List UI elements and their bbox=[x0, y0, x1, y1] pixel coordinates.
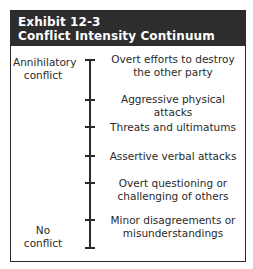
level-aggressive-physical: Aggressive physical attacks bbox=[103, 93, 243, 119]
axis-bottom-label: No conflict bbox=[13, 224, 73, 250]
exhibit-box: Exhibit 12-3 Conflict Intensity Continuu… bbox=[10, 10, 246, 262]
axis-tick bbox=[85, 219, 95, 221]
level-overt-questioning: Overt questioning or challenging of othe… bbox=[103, 177, 243, 203]
level-assertive-verbal: Assertive verbal attacks bbox=[103, 150, 243, 163]
level-threats: Threats and ultimatums bbox=[103, 121, 243, 134]
level-minor-disagreements: Minor disagreements or misunderstandings bbox=[103, 214, 243, 240]
axis-tick-top bbox=[85, 59, 95, 61]
level-overt-efforts: Overt efforts to destroy the other party bbox=[103, 53, 243, 79]
exhibit-header: Exhibit 12-3 Conflict Intensity Continuu… bbox=[11, 11, 245, 46]
axis-tick bbox=[85, 182, 95, 184]
axis-tick bbox=[85, 155, 95, 157]
exhibit-number: Exhibit 12-3 bbox=[18, 15, 245, 29]
axis-tick bbox=[85, 99, 95, 101]
axis-tick-bottom bbox=[85, 247, 95, 249]
axis-top-label: Annihilatory conflict bbox=[13, 56, 73, 82]
axis-tick bbox=[85, 126, 95, 128]
exhibit-title: Conflict Intensity Continuum bbox=[18, 29, 245, 43]
